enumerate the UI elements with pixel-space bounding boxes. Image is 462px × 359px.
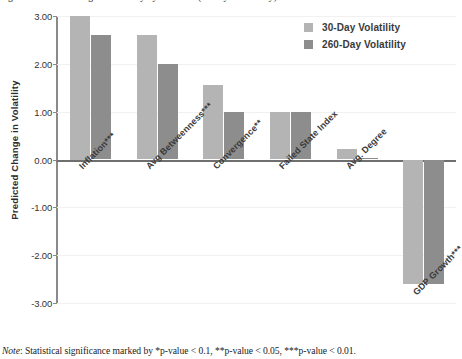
y-tick-mark bbox=[53, 16, 57, 17]
y-tick-mark bbox=[53, 207, 57, 208]
legend-label: 260-Day Volatility bbox=[322, 39, 406, 50]
y-tick-mark bbox=[53, 64, 57, 65]
y-tick-label: 2.00 bbox=[6, 58, 52, 69]
gridline bbox=[56, 112, 456, 113]
legend-item[interactable]: 30-Day Volatility bbox=[304, 19, 406, 36]
gridline bbox=[56, 303, 456, 304]
chart-legend: 30-Day Volatility260-Day Volatility bbox=[304, 19, 406, 53]
y-tick-mark bbox=[53, 303, 57, 304]
bar bbox=[137, 35, 157, 159]
gridline bbox=[56, 16, 456, 17]
legend-item[interactable]: 260-Day Volatility bbox=[304, 36, 406, 53]
clipped-figure-title: Figure: Predicted change in volatility b… bbox=[0, 0, 462, 5]
plot-area: Inflation***Avg Betweenness***Convergenc… bbox=[56, 16, 456, 303]
gridline bbox=[56, 207, 456, 208]
gridline bbox=[56, 64, 456, 65]
y-tick-label: -2.00 bbox=[6, 250, 52, 261]
figure-container: Figure: Predicted change in volatility b… bbox=[0, 0, 462, 359]
zero-baseline bbox=[56, 160, 456, 162]
y-tick-mark bbox=[53, 112, 57, 113]
y-axis-title: Predicted Change in Volatility bbox=[9, 80, 20, 219]
note-body-text: : Statistical significance marked by *p-… bbox=[20, 345, 356, 356]
bar bbox=[203, 85, 223, 159]
y-tick-mark bbox=[53, 160, 57, 161]
significance-stars: *** bbox=[449, 243, 462, 258]
bar bbox=[70, 16, 90, 160]
y-tick-label: -3.00 bbox=[6, 298, 52, 309]
gridline bbox=[56, 255, 456, 256]
legend-swatch bbox=[304, 40, 313, 49]
figure-title-text: Figure: Predicted change in volatility b… bbox=[0, 0, 462, 3]
note-lead-label: Note bbox=[2, 345, 20, 356]
legend-swatch bbox=[304, 23, 313, 32]
figure-note: Note: Statistical significance marked by… bbox=[2, 345, 460, 357]
y-tick-label: 3.00 bbox=[6, 11, 52, 22]
significance-stars: ** bbox=[252, 117, 265, 130]
legend-label: 30-Day Volatility bbox=[322, 22, 400, 33]
bar bbox=[403, 160, 423, 284]
y-tick-mark bbox=[53, 255, 57, 256]
